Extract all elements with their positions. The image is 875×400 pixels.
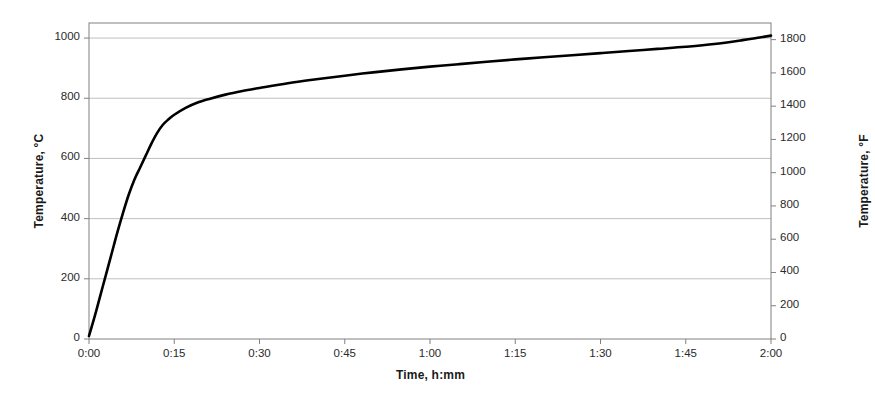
gridlines [89,38,771,279]
x-axis-tick-label: 0:15 [144,347,204,359]
y-axis-right-tick-label: 600 [780,231,824,243]
y-axis-left-tick-label: 800 [36,90,80,102]
y-axis-right-tick-label: 0 [780,331,824,343]
y-axis-right-tick-label: 1600 [780,65,824,77]
plot-area-border [89,23,771,339]
y-axis-right-tick-label: 800 [780,198,824,210]
x-axis-tick-label: 0:00 [59,347,119,359]
x-axis-tick-label: 1:15 [485,347,545,359]
x-axis-tick-label: 1:00 [400,347,460,359]
y-axis-left-tick-label: 0 [36,331,80,343]
y-axis-right-tick-label: 1800 [780,32,824,44]
x-axis-title: Time, h:mm [89,368,772,382]
y-axis-right-tick-label: 400 [780,264,824,276]
x-axis-tick-label: 0:30 [230,347,290,359]
x-axis-tick-label: 0:45 [315,347,375,359]
data-series-line [89,36,771,336]
y-axis-right-tick-label: 1400 [780,98,824,110]
x-axis-ticks [89,339,771,344]
y-axis-right-ticks [771,40,776,339]
x-axis-tick-label: 1:30 [571,347,631,359]
y-axis-right-title: Temperature, °F [853,11,875,351]
x-axis-tick-label: 2:00 [741,347,801,359]
y-axis-left-tick-label: 1000 [36,30,80,42]
y-axis-right-tick-label: 1000 [780,165,824,177]
y-axis-left-tick-label: 400 [36,211,80,223]
y-axis-left-ticks [84,38,89,339]
y-axis-left-tick-label: 200 [36,271,80,283]
y-axis-right-tick-label: 1200 [780,131,824,143]
y-axis-right-tick-label: 200 [780,298,824,310]
y-axis-left-title: Temperature, °C [28,11,50,351]
y-axis-left-tick-label: 600 [36,150,80,162]
x-axis-tick-label: 1:45 [656,347,716,359]
